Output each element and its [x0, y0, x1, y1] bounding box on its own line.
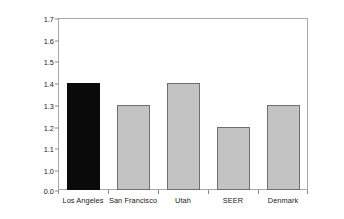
y-tick-mark [55, 40, 59, 41]
y-tick-mark [55, 171, 59, 172]
x-tick-mark [158, 190, 159, 194]
x-axis-label: Los Angeles [58, 195, 108, 209]
y-tick-mark [55, 62, 59, 63]
y-tick-mark [55, 149, 59, 150]
y-tick-mark [55, 19, 59, 20]
x-tick-mark [258, 190, 259, 194]
x-tick-mark [58, 190, 59, 194]
plot-area: 1.71.61.51.41.31.21.11.00.0 [58, 18, 308, 190]
x-axis-label: San Francisco [108, 195, 158, 209]
y-tick-mark [55, 127, 59, 128]
x-axis-label: Denmark [258, 195, 308, 209]
x-tick-mark [108, 190, 109, 194]
x-axis-label: SEER [208, 195, 258, 209]
y-tick-mark [55, 84, 59, 85]
bar-chart: Annual incidence (per 100,000) 1.71.61.5… [0, 0, 344, 219]
x-tick-mark [307, 190, 308, 194]
x-axis-label: Utah [158, 195, 208, 209]
x-axis-ticks [58, 190, 308, 194]
y-tick-mark [55, 105, 59, 106]
x-tick-mark [208, 190, 209, 194]
x-axis-labels: Los AngelesSan FranciscoUtahSEERDenmark [58, 195, 308, 209]
